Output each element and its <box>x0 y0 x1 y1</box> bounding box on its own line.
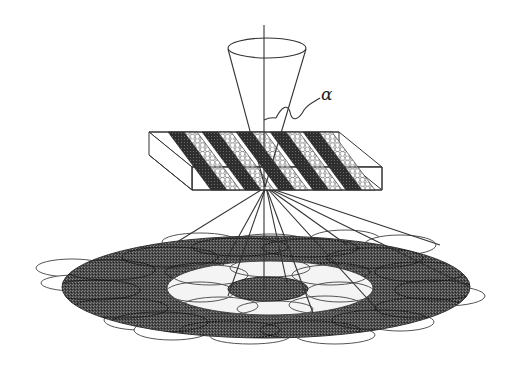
leader-squiggle <box>276 98 320 119</box>
alpha-angle-indicator <box>264 98 320 120</box>
crystal-slab <box>149 132 382 190</box>
alpha-label: α <box>321 86 332 103</box>
diffraction-diagram <box>0 0 529 365</box>
angle-arc <box>264 118 276 120</box>
central-dark-spot <box>228 277 308 301</box>
diffraction-disc <box>36 230 485 344</box>
cone-top-ellipse <box>228 38 306 58</box>
